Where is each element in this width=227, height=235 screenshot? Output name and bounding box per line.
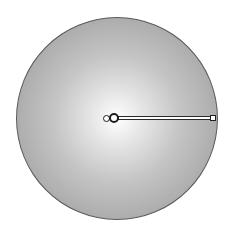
canvas-stage: [0, 0, 227, 235]
radius-end-handle-icon[interactable]: [210, 115, 216, 121]
center-point-handle-icon[interactable]: [109, 113, 119, 123]
gradient-radius-bar[interactable]: [118, 116, 211, 120]
